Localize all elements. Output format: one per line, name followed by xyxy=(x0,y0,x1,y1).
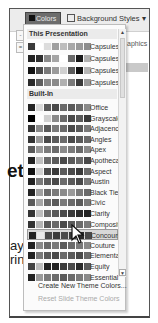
background-styles-button[interactable]: Background Styles ▾ xyxy=(67,14,146,23)
theme-color-option[interactable]: Office xyxy=(27,102,118,113)
color-swatch xyxy=(28,104,35,111)
theme-color-option[interactable]: Apex xyxy=(27,144,118,155)
color-swatches xyxy=(28,115,91,122)
color-swatch xyxy=(52,146,59,153)
theme-color-option[interactable]: Aspect xyxy=(27,166,118,177)
color-swatch xyxy=(60,146,67,153)
color-swatch xyxy=(68,168,75,175)
color-swatch xyxy=(28,263,35,270)
color-swatch xyxy=(36,221,43,228)
color-swatch xyxy=(36,104,43,111)
color-swatch xyxy=(28,125,35,132)
color-swatch xyxy=(36,79,43,86)
color-swatch xyxy=(52,199,59,206)
color-swatches xyxy=(28,157,91,164)
color-swatch xyxy=(36,274,43,281)
theme-color-option[interactable]: Elemental xyxy=(27,250,118,261)
color-swatch xyxy=(76,252,83,259)
color-swatch xyxy=(44,263,51,270)
color-swatch xyxy=(44,221,51,228)
color-swatch xyxy=(76,157,83,164)
color-swatch xyxy=(68,263,75,270)
color-swatch xyxy=(60,274,67,281)
theme-name-label: Black Tie xyxy=(90,188,118,197)
color-swatch xyxy=(68,136,75,143)
chevron-down-icon: ▾ xyxy=(140,14,146,23)
theme-color-option[interactable]: Austin xyxy=(27,176,118,187)
color-swatch-icon xyxy=(29,15,35,21)
theme-color-option[interactable]: Apothecary xyxy=(27,155,118,166)
theme-name-label: Aspect xyxy=(90,167,111,176)
theme-color-option[interactable]: Civic xyxy=(27,197,118,208)
color-swatch xyxy=(44,157,51,164)
background-styles-label: Background Styles xyxy=(77,14,140,23)
color-swatch xyxy=(52,252,59,259)
color-swatch xyxy=(76,125,83,132)
scroll-thumb[interactable] xyxy=(120,38,125,98)
color-swatch xyxy=(28,242,35,249)
color-swatch xyxy=(36,189,43,196)
color-swatch xyxy=(52,221,59,228)
theme-color-option[interactable]: Equity xyxy=(27,261,118,272)
theme-color-option[interactable]: Clarity xyxy=(27,208,118,219)
color-swatch xyxy=(36,210,43,217)
color-swatches xyxy=(28,67,91,74)
color-swatch xyxy=(68,79,75,86)
color-swatch xyxy=(68,157,75,164)
color-swatch xyxy=(28,146,35,153)
color-swatch xyxy=(36,146,43,153)
color-swatch xyxy=(76,67,83,74)
color-swatch xyxy=(29,232,36,239)
theme-color-option[interactable]: Capsules 1 xyxy=(27,41,118,52)
color-swatch xyxy=(44,189,51,196)
color-swatch xyxy=(52,263,59,270)
color-swatch xyxy=(36,263,43,270)
color-swatch xyxy=(68,146,75,153)
create-new-theme-colors-link[interactable]: Create New Theme Colors... xyxy=(38,282,127,289)
theme-color-option[interactable]: Capsules 3 xyxy=(27,65,118,76)
color-swatch xyxy=(60,67,67,74)
color-swatch xyxy=(76,43,83,50)
color-swatch xyxy=(60,189,67,196)
color-swatch xyxy=(60,125,67,132)
color-swatch xyxy=(37,232,44,239)
color-swatch xyxy=(28,178,35,185)
color-swatch xyxy=(52,189,59,196)
color-swatches xyxy=(28,43,91,50)
theme-color-option[interactable]: Grayscale xyxy=(27,113,118,124)
color-swatch xyxy=(36,199,43,206)
color-swatch xyxy=(28,157,35,164)
theme-color-option[interactable]: Essential xyxy=(27,272,118,283)
color-swatch xyxy=(44,210,51,217)
theme-name-label: Grayscale xyxy=(90,114,122,123)
theme-color-option[interactable]: Angles xyxy=(27,134,118,145)
scroll-up-icon[interactable]: ▲ xyxy=(119,29,126,36)
color-swatch xyxy=(28,79,35,86)
color-swatch xyxy=(76,178,83,185)
color-swatch xyxy=(60,136,67,143)
color-swatch xyxy=(68,43,75,50)
scroll-down-icon[interactable]: ▼ xyxy=(119,269,126,276)
color-swatch xyxy=(52,104,59,111)
color-swatch xyxy=(36,67,43,74)
color-swatch xyxy=(44,178,51,185)
theme-color-option[interactable]: Adjacency xyxy=(27,123,118,134)
theme-name-label: Clarity xyxy=(90,209,110,218)
color-swatch xyxy=(28,252,35,259)
color-swatch xyxy=(60,168,67,175)
color-swatch xyxy=(60,242,67,249)
color-swatches xyxy=(28,274,91,281)
color-swatch xyxy=(60,43,67,50)
theme-color-option[interactable]: Black Tie xyxy=(27,187,118,198)
color-swatch xyxy=(36,178,43,185)
theme-color-option[interactable]: Capsules 4 xyxy=(27,77,118,88)
color-swatch xyxy=(36,136,43,143)
color-swatches xyxy=(28,146,91,153)
theme-name-label: Angles xyxy=(90,135,111,144)
theme-color-option[interactable]: Capsules 2 xyxy=(27,53,118,64)
slide-text-partial: et xyxy=(7,160,24,182)
theme-name-label: Apex xyxy=(90,145,106,154)
scrollbar[interactable]: ▲ ▼ xyxy=(118,29,126,277)
color-swatch xyxy=(68,189,75,196)
color-swatch xyxy=(76,189,83,196)
